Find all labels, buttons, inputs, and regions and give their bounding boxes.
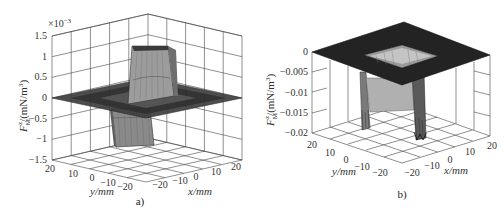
svg-text:−20: −20 [117, 181, 133, 192]
surface-peak [128, 46, 178, 104]
caption-b: b) [397, 188, 407, 201]
y-axis-label-a: y/mm [89, 185, 114, 197]
svg-text:0: 0 [42, 92, 47, 103]
svg-text:−0.02: −0.02 [285, 127, 308, 138]
x-axis-label-b: x/mm [443, 164, 468, 176]
z-axis-ticks-a: 1.5 1 0.5 0 −0.5 −1 −1.5 [29, 30, 47, 165]
svg-text:−10: −10 [354, 161, 370, 172]
y-axis-ticks-a: 20 10 0 −10 −20 [45, 163, 133, 192]
svg-text:20: 20 [307, 139, 317, 150]
svg-text:10: 10 [211, 166, 221, 177]
svg-text:−0.015: −0.015 [280, 107, 308, 118]
svg-text:20: 20 [231, 161, 241, 172]
z-exponent-a: ×10−3 [48, 17, 72, 29]
grid-floor [312, 105, 490, 163]
chart-panel-b: 0 −0.005 −0.01 −0.015 −0.02 FMz/(mN/m3) … [252, 0, 504, 216]
surface-plane [312, 22, 490, 85]
svg-text:1: 1 [42, 51, 47, 62]
surface-plot-b: 0 −0.005 −0.01 −0.015 −0.02 FMz/(mN/m3) … [252, 0, 504, 216]
svg-text:−1: −1 [36, 133, 47, 144]
z-axis-ticks-b: 0 −0.005 −0.01 −0.015 −0.02 [280, 46, 308, 138]
svg-text:−10: −10 [424, 160, 440, 171]
surface-well [360, 72, 426, 140]
svg-text:−10: −10 [172, 175, 188, 186]
svg-text:−0.01: −0.01 [285, 87, 308, 98]
svg-text:10: 10 [68, 168, 78, 179]
svg-text:1.5: 1.5 [35, 30, 48, 41]
svg-text:0.5: 0.5 [35, 71, 48, 82]
svg-text:−20: −20 [372, 167, 388, 178]
svg-text:0: 0 [194, 171, 199, 182]
x-axis-label-a: x/mm [187, 185, 212, 197]
svg-text:0: 0 [303, 46, 308, 57]
svg-text:10: 10 [325, 147, 335, 158]
svg-text:0: 0 [90, 172, 95, 183]
svg-text:20: 20 [487, 140, 497, 151]
svg-text:20: 20 [45, 163, 55, 174]
z-axis-label-b: FMz/(mN/m3) [263, 74, 279, 127]
y-axis-label-b: y/mm [331, 165, 356, 177]
svg-text:−0.005: −0.005 [280, 66, 308, 77]
caption-a: a) [136, 195, 145, 208]
z-axis-label-a: FMz/(mN/m3) [16, 80, 32, 133]
surface-plot-a: 1.5 1 0.5 0 −0.5 −1 −1.5 ×10−3 FMz/(mN/m… [0, 0, 252, 216]
svg-text:−20: −20 [152, 179, 168, 190]
svg-text:0: 0 [344, 154, 349, 165]
chart-panel-a: 1.5 1 0.5 0 −0.5 −1 −1.5 ×10−3 FMz/(mN/m… [0, 0, 252, 216]
svg-text:−20: −20 [404, 167, 420, 178]
svg-text:10: 10 [465, 146, 475, 157]
